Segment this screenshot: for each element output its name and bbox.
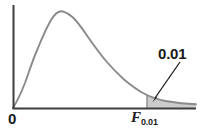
f-distribution-figure: 0 0.01 F0.01 — [0, 0, 204, 132]
density-curve — [13, 11, 196, 108]
chart-canvas — [0, 0, 204, 132]
leader-arrow-line — [155, 62, 180, 98]
